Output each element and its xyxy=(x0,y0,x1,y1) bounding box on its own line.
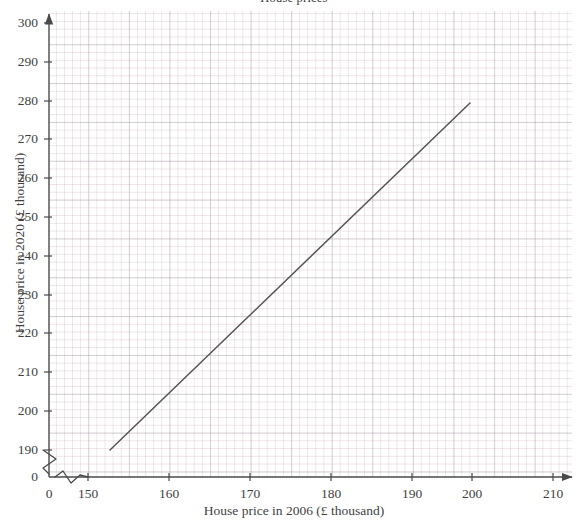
y-tick-label-origin: 0 xyxy=(14,469,38,485)
y-tick-label-280: 280 xyxy=(0,93,38,109)
x-tick-label-190: 190 xyxy=(402,486,422,502)
y-tick-label-200: 200 xyxy=(0,403,38,419)
x-tick-label-160: 160 xyxy=(159,486,179,502)
x-tick-label-200: 200 xyxy=(462,486,482,502)
x-tick-label-150: 150 xyxy=(78,486,98,502)
y-axis-ticks xyxy=(44,23,52,450)
y-axis-title: House price in 2020 (£ thousand) xyxy=(12,118,28,368)
x-tick-label-origin: 0 xyxy=(46,486,53,502)
x-tick-label-170: 170 xyxy=(240,486,260,502)
y-tick-label-300: 300 xyxy=(0,15,38,31)
chart-container: House prices xyxy=(0,0,588,522)
y-tick-label-290: 290 xyxy=(0,54,38,70)
x-tick-label-180: 180 xyxy=(321,486,341,502)
data-line-best-fit xyxy=(110,103,470,450)
x-tick-label-210: 210 xyxy=(543,486,563,502)
chart-overlay xyxy=(0,0,588,522)
x-axis-title: House price in 2006 (£ thousand) xyxy=(0,503,588,519)
y-tick-label-0: 190 xyxy=(0,442,38,458)
